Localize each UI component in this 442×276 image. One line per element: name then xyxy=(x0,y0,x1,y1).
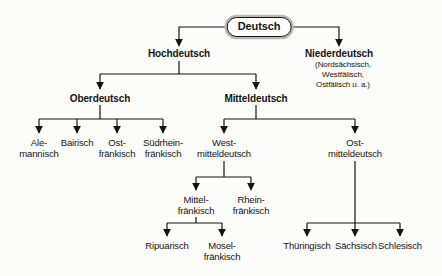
node-suedrheinfraenkisch: Südrhein- fränkisch xyxy=(143,137,183,159)
node-hochdeutsch: Hochdeutsch xyxy=(148,48,210,60)
node-oberdeutsch: Oberdeutsch xyxy=(70,93,131,105)
node-mitteldeutsch: Mitteldeutsch xyxy=(224,93,287,105)
german-dialects-tree-diagram: Deutsch Hochdeutsch Niederdeutsch (Nords… xyxy=(0,0,442,276)
node-ostmitteldeutsch: Ost- mitteldeutsch xyxy=(328,137,382,159)
node-saechsisch: Sächsisch xyxy=(335,240,377,251)
node-mittelfraenkisch: Mittel- fränkisch xyxy=(178,194,215,216)
node-alemannisch: Ale- mannisch xyxy=(19,137,58,159)
node-thueringisch: Thüringisch xyxy=(283,240,330,251)
edge-deutsch-hochdeutsch xyxy=(179,27,228,46)
edge-deutsch-niederdeutsch xyxy=(290,27,339,46)
node-niederdeutsch-note: (Nordsächsisch, Westfälisch, Ostfälisch … xyxy=(294,60,393,90)
node-schlesisch: Schlesisch xyxy=(378,240,422,251)
node-ostfraenkisch: Ost- fränkisch xyxy=(99,137,136,159)
node-bairisch: Bairisch xyxy=(61,137,94,148)
node-deutsch: Deutsch xyxy=(227,17,292,37)
node-westmitteldeutsch: West- mitteldeutsch xyxy=(197,137,251,159)
node-rheinfraenkisch: Rhein- fränkisch xyxy=(233,194,270,216)
node-ripuarisch: Ripuarisch xyxy=(145,240,188,251)
node-moselfraenkisch: Mosel- fränkisch xyxy=(204,240,241,262)
node-niederdeutsch: Niederdeutsch xyxy=(305,48,373,60)
